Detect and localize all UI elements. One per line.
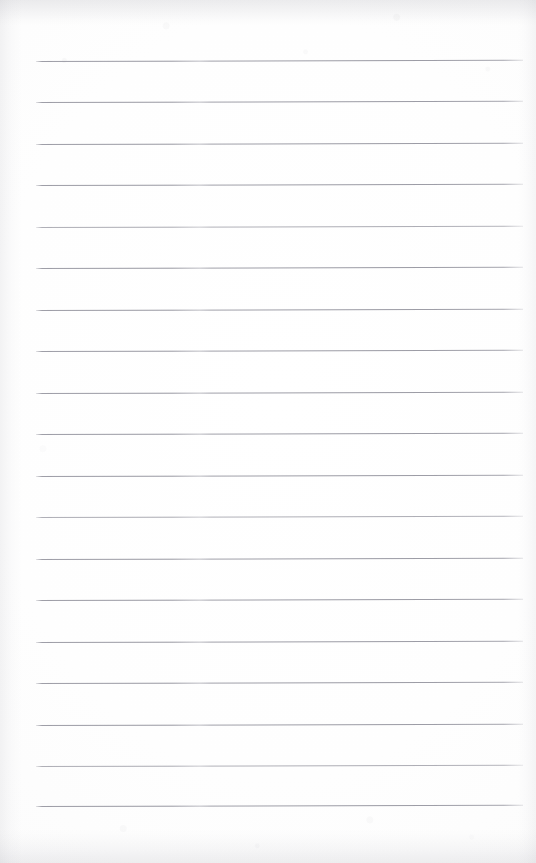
writing-area [36, 61, 523, 806]
notebook-page [0, 0, 536, 863]
